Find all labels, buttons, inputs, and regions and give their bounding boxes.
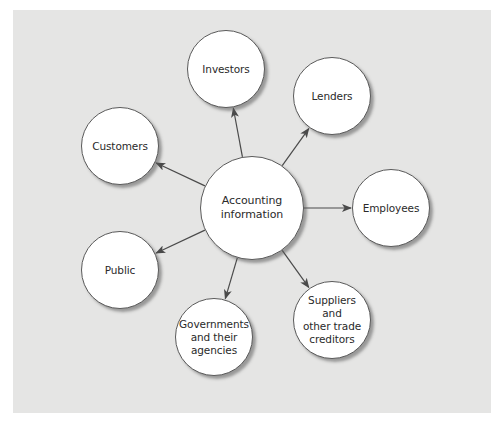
arrow-investors	[233, 108, 242, 157]
node-label: Accounting information	[221, 194, 283, 222]
node-customers: Customers	[81, 107, 159, 185]
node-label: Governments and their agencies	[179, 318, 249, 357]
node-label: Suppliers and other trade creditors	[303, 294, 361, 346]
node-investors: Investors	[187, 30, 265, 108]
node-accounting-information: Accounting information	[200, 156, 304, 260]
arrow-public	[156, 230, 205, 253]
arrow-suppliers	[282, 250, 309, 287]
arrow-governments	[225, 258, 237, 299]
node-employees: Employees	[352, 169, 430, 247]
node-label: Lenders	[312, 90, 353, 103]
node-label: Public	[105, 264, 135, 277]
node-public: Public	[81, 231, 159, 309]
node-label: Investors	[202, 63, 249, 76]
node-suppliers: Suppliers and other trade creditors	[293, 281, 371, 359]
arrow-lenders	[282, 129, 309, 166]
node-label: Customers	[92, 140, 148, 153]
node-lenders: Lenders	[293, 57, 371, 135]
node-governments: Governments and their agencies	[175, 298, 253, 376]
arrow-customers	[156, 163, 205, 186]
node-label: Employees	[363, 202, 420, 215]
